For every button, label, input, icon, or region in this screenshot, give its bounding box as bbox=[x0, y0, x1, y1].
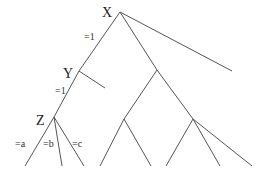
tree-edge bbox=[166, 119, 193, 166]
edge-label: =1 bbox=[84, 31, 95, 42]
tree-edge bbox=[120, 12, 232, 71]
edge-label: =b bbox=[43, 138, 54, 149]
game-tree-diagram: =1=1=a=b=c XYZ bbox=[0, 0, 262, 174]
tree-edge bbox=[79, 71, 105, 88]
node-label-y: Y bbox=[63, 66, 73, 81]
node-labels: XYZ bbox=[36, 5, 112, 128]
edge-labels: =1=1=a=b=c bbox=[15, 31, 95, 149]
tree-edge bbox=[193, 119, 252, 166]
tree-edge bbox=[124, 70, 157, 119]
tree-edge bbox=[120, 12, 157, 70]
tree-edge bbox=[100, 119, 124, 166]
node-label-z: Z bbox=[36, 113, 45, 128]
tree-edge bbox=[157, 70, 193, 119]
tree-edge bbox=[124, 119, 151, 166]
edge-label: =1 bbox=[55, 85, 66, 96]
edge-label: =a bbox=[15, 138, 26, 149]
tree-edge bbox=[193, 119, 220, 166]
node-label-x: X bbox=[102, 5, 112, 20]
edge-label: =c bbox=[72, 138, 83, 149]
